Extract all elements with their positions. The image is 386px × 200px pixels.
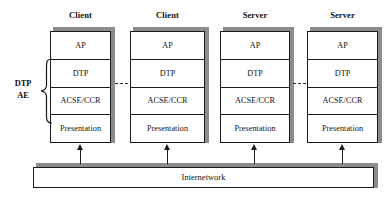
layer-ap-4: AP: [308, 32, 377, 60]
arrow-shaft-2: [167, 150, 168, 164]
group-label-line-1: DTP: [15, 79, 32, 88]
layer-ap-2: AP: [131, 32, 204, 60]
internetwork-shadow-right: [374, 163, 378, 188]
protocol-stack-4: AP DTP ACSE/CCR Presentation: [307, 31, 378, 143]
column-header-4: Server: [307, 10, 378, 20]
arrow-head-2: [164, 144, 170, 150]
layer-presentation-4: Presentation: [308, 115, 377, 142]
arrow-head-1: [77, 144, 83, 150]
layer-dtp-3: DTP: [221, 60, 289, 88]
layer-presentation-1: Presentation: [51, 115, 110, 142]
layer-dtp-2: DTP: [131, 60, 204, 88]
stack-shadow-2-right: [205, 27, 209, 143]
continuation-dashes-1: [115, 83, 129, 84]
group-brace: [39, 58, 53, 124]
layer-dtp-4: DTP: [308, 60, 377, 88]
layer-ap-3: AP: [221, 32, 289, 60]
protocol-stack-diagram: Client Client Server Server AP DTP ACSE/…: [0, 0, 386, 200]
layer-presentation-2: Presentation: [131, 115, 204, 142]
layer-acse-ccr-2: ACSE/CCR: [131, 88, 204, 116]
internetwork-bar: Internetwork: [33, 167, 374, 188]
column-header-2: Client: [130, 10, 205, 20]
layer-acse-ccr-1: ACSE/CCR: [51, 88, 110, 116]
stack-shadow-4-right: [378, 27, 382, 143]
protocol-stack-1: AP DTP ACSE/CCR Presentation: [50, 31, 111, 143]
stack-shadow-1-right: [111, 27, 115, 143]
protocol-stack-2: AP DTP ACSE/CCR Presentation: [130, 31, 205, 143]
group-label-dtp-ae: DTP AE: [7, 78, 39, 101]
protocol-stack-3: AP DTP ACSE/CCR Presentation: [220, 31, 290, 143]
layer-acse-ccr-3: ACSE/CCR: [221, 88, 289, 116]
continuation-dashes-2: [293, 83, 307, 84]
arrow-shaft-1: [80, 150, 81, 164]
stack-shadow-3-right: [290, 27, 294, 143]
internetwork-label: Internetwork: [182, 173, 226, 182]
arrow-head-4: [339, 144, 345, 150]
layer-presentation-3: Presentation: [221, 115, 289, 142]
column-header-1: Client: [50, 10, 111, 20]
arrow-shaft-4: [342, 150, 343, 164]
layer-ap-1: AP: [51, 32, 110, 60]
column-header-3: Server: [220, 10, 290, 20]
layer-acse-ccr-4: ACSE/CCR: [308, 88, 377, 116]
arrow-head-3: [251, 144, 257, 150]
group-label-line-2: AE: [17, 91, 29, 100]
layer-dtp-1: DTP: [51, 60, 110, 88]
arrow-shaft-3: [254, 150, 255, 164]
